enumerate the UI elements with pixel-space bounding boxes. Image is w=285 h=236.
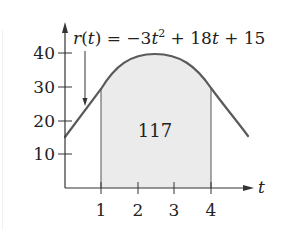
area-value-label: 117: [138, 120, 172, 141]
y-tick-label-20: 20: [33, 111, 55, 131]
x-tick-label-3: 3: [169, 200, 180, 220]
label-pointer-arrow-icon: [83, 98, 88, 106]
y-tick-label-10: 10: [33, 144, 55, 164]
chart-svg: 10 20 30 40 1 2 3 4 t 117 r(t) = −3t2 + …: [0, 0, 285, 236]
y-axis-arrow-icon: [62, 22, 68, 33]
function-label: r(t) = −3t2 + 18t + 15: [73, 27, 265, 48]
y-tick-label-40: 40: [33, 43, 55, 63]
y-tick-label-30: 30: [33, 77, 55, 97]
x-tick-label-4: 4: [206, 200, 217, 220]
x-axis-arrow-icon: [243, 185, 254, 191]
chart-container: 10 20 30 40 1 2 3 4 t 117 r(t) = −3t2 + …: [0, 0, 285, 236]
x-tick-label-1: 1: [96, 200, 107, 220]
x-tick-label-2: 2: [133, 200, 144, 220]
x-axis-label: t: [258, 177, 265, 197]
